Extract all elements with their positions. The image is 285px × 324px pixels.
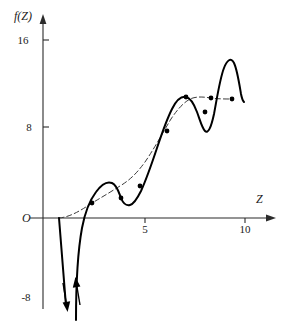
chart-figure: f(Z) Z O 16 8 -8 5 10 (0, 0, 285, 324)
data-point (203, 110, 208, 115)
x-axis-arrowhead (266, 215, 276, 222)
data-point (230, 97, 235, 102)
origin-label: O (22, 211, 31, 225)
y-tick-label-minus-8: -8 (21, 291, 31, 303)
x-axis (30, 215, 276, 222)
y-axis-title: f(Z) (14, 9, 32, 23)
data-point-markers (90, 95, 235, 206)
x-tick-label-5: 5 (142, 223, 148, 235)
x-axis-title: Z (256, 192, 263, 206)
y-axis (40, 14, 47, 309)
left-asymptote-arrow (63, 283, 71, 312)
data-point (90, 201, 95, 206)
data-point (184, 95, 189, 100)
data-point (165, 129, 170, 134)
y-axis-arrowhead (40, 14, 47, 24)
y-tick-marks (43, 40, 49, 127)
function-plot-svg: f(Z) Z O 16 8 -8 5 10 (0, 0, 285, 324)
data-point (138, 184, 143, 189)
x-tick-label-10: 10 (240, 223, 252, 235)
x-tick-marks (145, 218, 245, 223)
y-tick-label-16: 16 (18, 34, 30, 46)
trend-curve (59, 97, 232, 218)
data-point (119, 196, 124, 201)
y-tick-label-8: 8 (26, 121, 32, 133)
data-point (209, 96, 214, 101)
